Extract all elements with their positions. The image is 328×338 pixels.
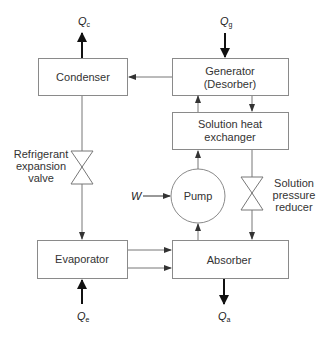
absorber-label: Absorber: [207, 254, 252, 266]
refrigerant-valve-label-1: Refrigerant: [14, 148, 68, 160]
pressure-reducer-icon: [241, 177, 263, 210]
pressure-reducer-label-1: Solution: [274, 177, 314, 189]
pressure-reducer-label-2: pressure: [273, 189, 316, 201]
generator-label: Generator: [205, 65, 255, 77]
heat-exchanger-label-1: Solution heat: [198, 118, 262, 130]
evaporator-label: Evaporator: [55, 253, 109, 265]
qg-label: Qg: [220, 15, 233, 29]
qa-label: Qa: [218, 310, 231, 323]
pressure-reducer-label-3: reducer: [275, 201, 313, 213]
refrigerant-valve-label-3: valve: [28, 172, 54, 184]
work-label: W: [131, 190, 143, 202]
qe-label: Qe: [77, 310, 90, 323]
condenser-label: Condenser: [56, 71, 110, 83]
absorption-cycle-diagram: Condenser Generator (Desorber) Solution …: [0, 0, 328, 338]
generator-sublabel: (Desorber): [204, 78, 257, 90]
refrigerant-valve-label-2: expansion: [16, 160, 66, 172]
diagram-canvas: Condenser Generator (Desorber) Solution …: [0, 0, 328, 338]
heat-exchanger-label-2: exchanger: [204, 131, 256, 143]
pump-label: Pump: [184, 190, 213, 202]
qc-label: Qc: [78, 15, 91, 28]
refrigerant-valve-icon: [71, 151, 93, 184]
